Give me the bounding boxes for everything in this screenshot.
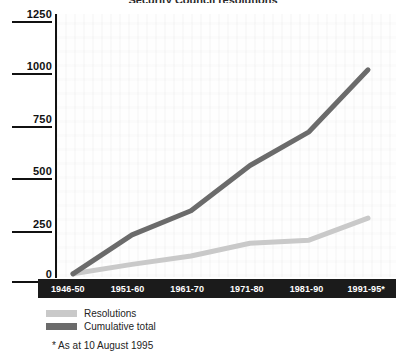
chart-figure: Security Council resolutions 1250 1000 7… (0, 0, 406, 361)
legend-item-cumulative-total: Cumulative total (46, 320, 376, 333)
x-axis-category: 1946-50 (38, 284, 98, 294)
legend-label: Resolutions (84, 308, 136, 319)
chart-legend: Resolutions Cumulative total (46, 307, 376, 333)
legend-item-resolutions: Resolutions (46, 307, 376, 320)
x-axis-category: 1981-90 (277, 284, 337, 294)
x-axis-category: 1991-95* (336, 284, 396, 294)
x-axis-category: 1971-80 (217, 284, 277, 294)
x-axis-category-band: 1946-50 1951-60 1961-70 1971-80 1981-90 … (38, 279, 396, 298)
chart-footnote: * As at 10 August 1995 (52, 340, 153, 351)
legend-swatch-icon (46, 310, 77, 317)
x-axis-category: 1951-60 (98, 284, 158, 294)
line-cumulative-total (73, 70, 368, 274)
legend-label: Cumulative total (84, 321, 156, 332)
x-axis-category: 1961-70 (157, 284, 217, 294)
legend-swatch-icon (46, 323, 77, 330)
